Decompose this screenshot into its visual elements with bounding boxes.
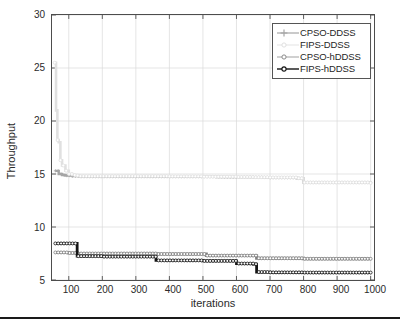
legend-item[interactable]: FIPS-hDDSS: [276, 63, 366, 75]
y-tick-label: 30: [5, 9, 45, 20]
legend-item-label: FIPS-DDSS: [300, 39, 350, 51]
series-fips-ddss: [53, 61, 372, 184]
chart-legend: CPSO-DDSS FIPS-DDSS CPSO-hDDSS FIPS-hDDS…: [272, 23, 371, 79]
legend-item-label: CPSO-hDDSS: [300, 51, 361, 63]
legend-item-label: CPSO-DDSS: [300, 27, 356, 39]
circle-marker-icon: [276, 51, 300, 63]
figure-canvas: 30 25 20 15 10 5 Throughput 100 200 300 …: [0, 0, 400, 329]
legend-item[interactable]: CPSO-hDDSS: [276, 51, 366, 63]
y-axis-title: Throughput: [4, 96, 18, 206]
y-tick-label: 25: [5, 62, 45, 73]
y-axis-title-text: Throughput: [5, 123, 17, 179]
legend-item[interactable]: CPSO-DDSS: [276, 27, 366, 39]
x-tick-label: 1000: [352, 284, 398, 295]
circle-marker-icon: [276, 39, 300, 51]
y-tick-label: 10: [5, 222, 45, 233]
circle-marker-icon: [276, 63, 300, 75]
page-divider-rule: [0, 317, 400, 319]
legend-item[interactable]: FIPS-DDSS: [276, 39, 366, 51]
x-axis-title: iterations: [51, 297, 375, 309]
legend-item-label: FIPS-hDDSS: [300, 63, 355, 75]
y-tick-label: 5: [5, 275, 45, 286]
plus-marker-icon: [276, 27, 300, 39]
